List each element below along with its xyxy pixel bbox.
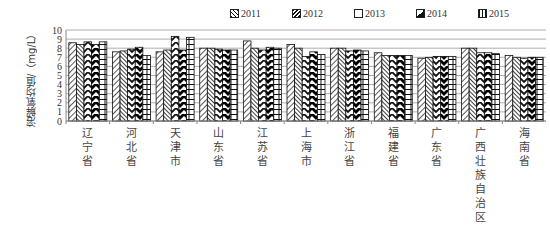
bar [536, 57, 544, 121]
x-tick-label: 省 [126, 155, 137, 168]
x-tick-label: 北 [126, 141, 137, 154]
legend-label: 2015 [489, 8, 509, 19]
bar [274, 48, 282, 121]
bar [207, 48, 215, 121]
bar [156, 52, 164, 121]
bar [382, 55, 390, 121]
legend-label: 2012 [303, 8, 323, 19]
x-tick-label: 省 [213, 155, 224, 168]
x-tick-label: 上 [301, 127, 312, 140]
x-tick-label: 省 [388, 155, 399, 168]
bar [397, 55, 405, 121]
bar [223, 50, 231, 121]
y-axis-ticks: 012345678910 [52, 25, 62, 127]
y-tick-label: 10 [52, 25, 62, 36]
x-tick-label: 省 [257, 155, 268, 168]
bar [389, 55, 397, 121]
x-tick-label: 东 [431, 141, 442, 154]
legend-item: 2015 [478, 8, 540, 19]
bar [469, 48, 477, 121]
legend-item: 2012 [292, 8, 354, 19]
bar [186, 37, 194, 121]
x-tick-label: 广 [431, 127, 442, 140]
legend-item: 2013 [354, 8, 416, 19]
x-tick-label: 山 [213, 127, 224, 140]
x-tick-label: 省 [82, 155, 93, 168]
legend-label: 2013 [365, 8, 385, 19]
x-tick-label: 海 [301, 140, 312, 154]
x-tick-label: 天 [170, 127, 181, 140]
x-axis-labels: 辽宁省河北省天津市山东省江苏省上海市浙江省福建省广东省广西壮族自治区海南省 [66, 121, 530, 224]
x-tick-label: 广 [475, 127, 486, 140]
bar [338, 48, 346, 121]
bar [69, 43, 77, 121]
legend-swatch-icon [354, 9, 363, 18]
x-tick-label: 省 [431, 155, 442, 168]
x-tick-label: 西 [475, 141, 486, 154]
bar [405, 55, 413, 121]
bar [374, 53, 382, 121]
x-tick-label: 苏 [257, 141, 268, 154]
x-tick-label: 江 [344, 141, 355, 154]
bar [528, 57, 536, 121]
bar [200, 48, 208, 121]
bar [99, 42, 107, 121]
legend-label: 2014 [427, 8, 447, 19]
bar [266, 47, 274, 121]
bar [484, 53, 492, 121]
legend-swatch-icon [416, 9, 425, 18]
bar [215, 49, 223, 121]
legend-item: 2014 [416, 8, 478, 19]
bar [331, 48, 339, 121]
bar [295, 48, 303, 121]
bar [287, 45, 295, 121]
legend-item: 2011 [230, 8, 292, 19]
bar [317, 55, 325, 121]
bar [92, 45, 100, 121]
bar [171, 36, 179, 121]
bar [164, 50, 172, 121]
bar [462, 48, 470, 121]
bar [84, 42, 92, 121]
bar [76, 45, 84, 121]
legend: 20112012201320142015 [230, 8, 540, 19]
x-tick-label: 壮 [475, 155, 486, 168]
bar [492, 54, 500, 121]
bar [112, 52, 120, 121]
x-tick-label: 江 [257, 127, 268, 140]
x-tick-label: 东 [213, 141, 224, 154]
bar [505, 55, 513, 121]
bar [441, 56, 449, 121]
x-tick-label: 市 [170, 154, 181, 168]
bar [259, 50, 267, 121]
bar [361, 51, 369, 121]
x-tick-label: 南 [519, 141, 530, 154]
x-tick-label: 建 [388, 140, 399, 154]
bar [143, 55, 151, 121]
bar [243, 41, 251, 121]
x-tick-label: 宁 [82, 140, 93, 154]
x-tick-label: 治 [475, 196, 486, 210]
x-tick-label: 海 [519, 126, 530, 140]
x-tick-label: 族 [475, 168, 486, 182]
bar [310, 52, 318, 121]
bar [128, 49, 136, 121]
x-tick-label: 浙 [344, 127, 355, 140]
y-axis-label: 溶解氧均值/（mg/L） [24, 28, 38, 128]
bar [426, 57, 434, 121]
bar [230, 50, 238, 121]
legend-swatch-icon [478, 9, 487, 18]
bar [251, 48, 259, 121]
bar-series [69, 36, 543, 121]
x-tick-label: 省 [344, 155, 355, 168]
x-tick-label: 河 [126, 127, 137, 140]
bar [520, 58, 528, 121]
x-tick-label: 福 [388, 126, 399, 140]
bar [179, 50, 187, 121]
bar [346, 51, 354, 121]
bar [353, 50, 361, 121]
x-tick-label: 市 [301, 154, 312, 168]
x-tick-label: 辽 [82, 127, 93, 140]
legend-swatch-icon [292, 9, 301, 18]
bar [448, 56, 456, 121]
